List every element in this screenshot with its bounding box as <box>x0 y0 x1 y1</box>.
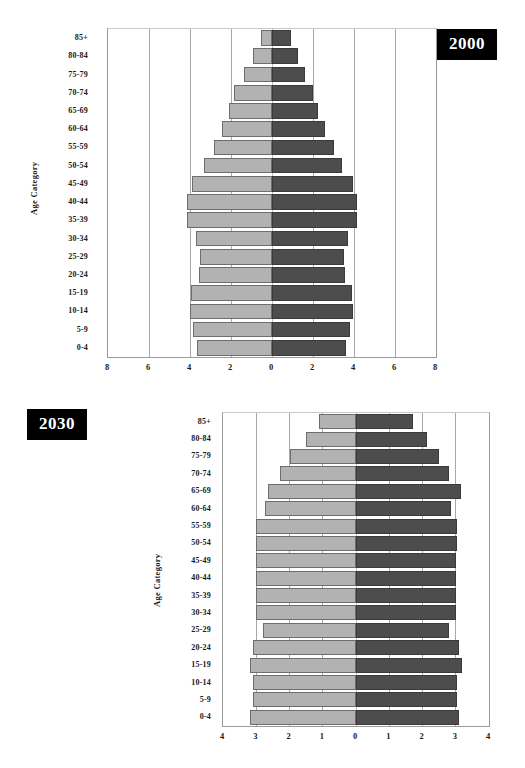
bar-right <box>356 640 459 655</box>
gridline <box>436 29 437 357</box>
chart-pyramid-2030: Age Category 2030 85+80-8475-7970-7465-6… <box>0 395 525 768</box>
bar-left <box>196 231 272 247</box>
bar-right <box>272 140 334 156</box>
age-category-label: 20-24 <box>155 642 211 651</box>
x-axis-tick-label: 2 <box>310 362 314 372</box>
bar-right <box>272 176 353 192</box>
plot-area-2030 <box>222 412 490 727</box>
bar-left <box>253 675 356 690</box>
bar-right <box>356 536 457 551</box>
bar-left <box>214 140 272 156</box>
bar-right <box>356 588 456 603</box>
bar-right <box>272 48 298 64</box>
gridline <box>223 413 224 726</box>
x-axis-tick-label: 4 <box>351 362 355 372</box>
age-category-label: 80-84 <box>32 51 88 60</box>
x-axis-tick-label: 6 <box>392 362 396 372</box>
bar-right <box>272 340 346 356</box>
bar-right <box>272 194 357 210</box>
gridline <box>108 29 109 357</box>
x-axis-tick-label: 8 <box>105 362 109 372</box>
bar-left <box>187 212 272 228</box>
bar-left <box>197 340 272 356</box>
bar-left <box>263 623 356 638</box>
age-category-label: 50-54 <box>32 160 88 169</box>
x-axis-tick-label: 8 <box>433 362 437 372</box>
age-category-label: 70-74 <box>155 468 211 477</box>
age-category-label: 55-59 <box>155 521 211 530</box>
bar-right <box>356 414 413 429</box>
bar-right <box>272 267 345 283</box>
gridline <box>395 29 396 357</box>
age-category-label: 35-39 <box>155 590 211 599</box>
age-category-label: 65-69 <box>32 106 88 115</box>
year-badge-2030: 2030 <box>27 409 87 440</box>
age-category-label: 75-79 <box>155 451 211 460</box>
age-category-label: 0-4 <box>32 342 88 351</box>
age-category-label: 15-19 <box>32 288 88 297</box>
bar-right <box>356 519 457 534</box>
bar-left <box>319 414 356 429</box>
x-axis-tick-label: 6 <box>146 362 150 372</box>
bar-left <box>256 571 356 586</box>
age-category-label: 5-9 <box>155 694 211 703</box>
bar-right <box>356 623 449 638</box>
x-axis-tick-label: 4 <box>486 731 490 741</box>
age-category-labels-2030: 85+80-8475-7970-7465-6960-6455-5950-5445… <box>155 412 211 727</box>
population-pyramid-figure: Age Category 2000 85+80-8475-7970-7465-6… <box>0 0 525 768</box>
age-category-label: 40-44 <box>155 573 211 582</box>
bar-right <box>356 553 456 568</box>
bar-left <box>280 466 356 481</box>
age-category-labels-2000: 85+80-8475-7970-7465-6960-6455-5950-5445… <box>32 28 88 358</box>
bar-left <box>253 692 356 707</box>
bar-left <box>250 710 356 725</box>
bar-left <box>204 158 272 174</box>
age-category-label: 55-59 <box>32 142 88 151</box>
bar-left <box>190 304 272 320</box>
bar-right <box>356 501 451 516</box>
bar-right <box>356 605 456 620</box>
age-category-label: 30-34 <box>32 233 88 242</box>
age-category-label: 25-29 <box>155 625 211 634</box>
age-category-label: 0-4 <box>155 712 211 721</box>
age-category-label: 45-49 <box>155 555 211 564</box>
age-category-label: 35-39 <box>32 215 88 224</box>
bar-left <box>187 194 272 210</box>
age-category-label: 65-69 <box>155 486 211 495</box>
bar-left <box>253 640 356 655</box>
age-category-label: 15-19 <box>155 660 211 669</box>
bar-left <box>268 484 356 499</box>
bar-right <box>356 466 449 481</box>
bar-left <box>191 285 272 301</box>
age-category-label: 70-74 <box>32 87 88 96</box>
bar-left <box>193 322 272 338</box>
bar-left <box>256 519 356 534</box>
bar-left <box>256 588 356 603</box>
age-category-label: 85+ <box>155 416 211 425</box>
bar-right <box>272 212 357 228</box>
x-axis-tick-label: 2 <box>286 731 290 741</box>
x-axis-tick-label: 3 <box>253 731 257 741</box>
bar-left <box>306 432 356 447</box>
age-category-label: 85+ <box>32 33 88 42</box>
bar-right <box>356 675 457 690</box>
age-category-label: 10-14 <box>32 306 88 315</box>
x-axis-tick-label: 0 <box>269 362 273 372</box>
bar-right <box>272 249 344 265</box>
bar-right <box>272 304 353 320</box>
bar-right <box>356 658 462 673</box>
age-category-label: 25-29 <box>32 251 88 260</box>
bar-left <box>222 121 272 137</box>
bar-right <box>356 484 461 499</box>
age-category-label: 30-34 <box>155 607 211 616</box>
bar-right <box>356 692 457 707</box>
bar-left <box>199 267 272 283</box>
bar-right <box>356 432 427 447</box>
age-category-label: 80-84 <box>155 434 211 443</box>
bar-left <box>200 249 272 265</box>
x-axis-tick-label: 4 <box>187 362 191 372</box>
x-axis-tick-label: 3 <box>453 731 457 741</box>
bar-right <box>272 121 325 137</box>
bar-left <box>244 67 272 83</box>
chart-pyramid-2000: Age Category 2000 85+80-8475-7970-7465-6… <box>0 0 525 385</box>
